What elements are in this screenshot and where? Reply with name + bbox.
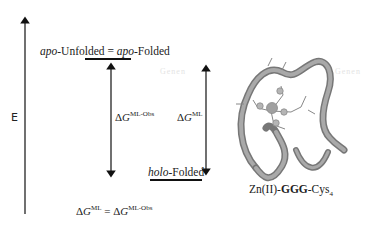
caption-ggg: GGG	[281, 183, 308, 195]
caption-subscript: 4	[330, 190, 334, 198]
sulfur-atom	[281, 109, 287, 115]
caption-cys: -Cys	[308, 183, 330, 195]
caption-prefix: Zn(II)-	[249, 183, 281, 195]
sulfur-atom	[277, 88, 283, 94]
sulfur-atom	[273, 120, 279, 126]
molecule-caption: Zn(II)-GGG-Cys4	[249, 183, 333, 198]
sulfur-atom	[257, 103, 263, 109]
zinc-atom	[267, 103, 278, 114]
